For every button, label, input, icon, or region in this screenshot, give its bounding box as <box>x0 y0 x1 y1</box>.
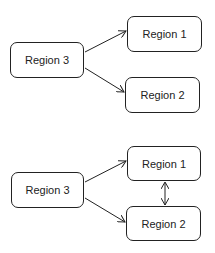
arrow-region3-to-region1 <box>85 31 126 52</box>
node-label: Region 1 <box>142 158 186 170</box>
node-label: Region 3 <box>25 54 69 66</box>
node-region-1: Region 1 <box>127 146 201 181</box>
node-region-3: Region 3 <box>10 42 84 78</box>
arrow-region3-to-region2 <box>85 198 125 222</box>
node-region-2: Region 2 <box>126 206 201 241</box>
arrow-region3-to-region1 <box>85 161 126 182</box>
node-label: Region 2 <box>141 218 185 230</box>
node-label: Region 3 <box>25 184 69 196</box>
arrow-region3-to-region2 <box>85 68 124 92</box>
node-label: Region 2 <box>140 89 184 101</box>
node-label: Region 1 <box>142 28 186 40</box>
node-region-1: Region 1 <box>127 16 202 52</box>
node-region-3: Region 3 <box>11 172 84 208</box>
node-region-2: Region 2 <box>125 77 200 113</box>
